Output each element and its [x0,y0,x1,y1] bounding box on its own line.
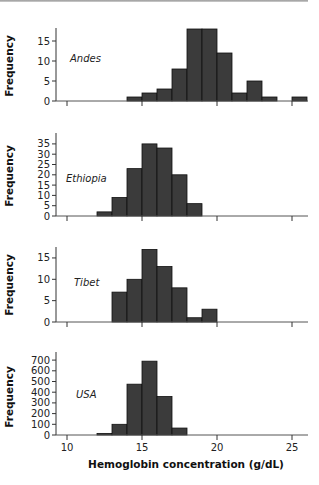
histogram-bar-andes [232,93,247,101]
histogram-bar-tibet [142,249,157,322]
y-axis-label: Frequency [3,254,15,316]
histogram-bar-andes [202,29,217,101]
y-tick-label: 5 [44,200,50,211]
histogram-bar-andes [142,93,157,101]
histogram-bar-andes [187,29,202,101]
histogram-bar-usa [127,384,142,435]
y-tick-label: 400 [31,387,50,398]
histogram-bar-usa [172,428,187,435]
y-axis-label: Frequency [3,35,15,97]
y-tick-label: 10 [37,56,50,67]
y-tick-label: 5 [44,295,50,306]
histogram-bar-ethiopia [127,169,142,216]
y-tick-label: 100 [31,419,50,430]
y-tick-label: 15 [37,36,50,47]
histogram-bar-usa [142,361,157,435]
panel-label-ethiopia: Ethiopia [66,173,107,184]
x-tick-label: 15 [136,442,149,453]
histogram-bar-ethiopia [112,197,127,216]
y-tick-label: 600 [31,365,50,376]
histogram-bar-tibet [157,266,172,322]
panel-label-usa: USA [76,389,97,400]
y-tick-label: 20 [37,169,50,180]
y-tick-label: 500 [31,376,50,387]
x-axis-label: Hemoglobin concentration (g/dL) [88,458,284,470]
histogram-bar-tibet [127,279,142,322]
x-tick-label: 20 [211,442,224,453]
histogram-bar-andes [217,53,232,101]
histogram-bar-usa [157,396,172,435]
histogram-bar-ethiopia [142,144,157,216]
histogram-bar-tibet [202,309,217,322]
y-tick-label: 0 [44,430,50,441]
y-tick-label: 15 [37,252,50,263]
y-tick-label: 0 [44,211,50,222]
panel-label-andes: Andes [69,53,101,64]
histogram-bar-tibet [112,292,127,322]
y-tick-label: 10 [37,274,50,285]
y-tick-label: 10 [37,190,50,201]
y-tick-label: 25 [37,159,50,170]
histogram-bar-andes [262,97,277,101]
histogram-bar-andes [172,69,187,101]
x-tick-label: 10 [61,442,74,453]
y-tick-label: 0 [44,96,50,107]
histogram-bar-tibet [172,288,187,322]
histogram-bar-ethiopia [97,212,112,216]
y-tick-label: 5 [44,76,50,87]
histogram-bar-usa [112,424,127,435]
y-tick-label: 0 [44,317,50,328]
histogram-bar-tibet [187,318,202,322]
hemoglobin-histograms-chart: 051015FrequencyAndes05101520253035Freque… [0,0,319,485]
panel-label-tibet: Tibet [74,277,100,288]
y-tick-label: 200 [31,408,50,419]
y-tick-label: 15 [37,180,50,191]
histogram-bar-ethiopia [157,148,172,216]
y-tick-label: 35 [37,138,50,149]
x-tick-label: 25 [286,442,299,453]
y-axis-label: Frequency [3,145,15,207]
y-tick-label: 700 [31,355,50,366]
histogram-bar-andes [292,97,307,101]
histogram-bar-ethiopia [172,175,187,216]
histogram-bar-ethiopia [187,204,202,216]
y-axis-label: Frequency [3,366,15,428]
histogram-bar-andes [157,89,172,101]
y-tick-label: 300 [31,397,50,408]
histogram-bar-andes [127,97,142,101]
histogram-bar-andes [247,81,262,101]
y-tick-label: 30 [37,149,50,160]
